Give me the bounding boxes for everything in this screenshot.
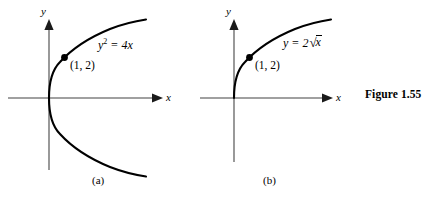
curve-lower-branch xyxy=(49,98,146,177)
x-axis-arrowhead-icon xyxy=(152,93,163,102)
x-axis-arrowhead-icon xyxy=(322,93,333,102)
point-marker-1-2 xyxy=(246,54,253,61)
equation-label-a: y2 = 4x xyxy=(98,39,133,51)
panel-a-sub-caption: (a) xyxy=(92,174,104,186)
figure-container: y x y2 = 4x (1, 2) (a) y x y = 2√x (1, 2… xyxy=(0,0,436,203)
point-label-a: (1, 2) xyxy=(70,60,95,72)
equation-label-b: y = 2√x xyxy=(283,36,322,49)
figure-caption: Figure 1.55 xyxy=(365,88,421,100)
y-axis-arrowhead-icon xyxy=(229,19,238,30)
x-axis-label: x xyxy=(166,92,171,103)
point-marker-1-2 xyxy=(61,54,68,61)
y-axis-label: y xyxy=(41,6,46,17)
figure-panel-a: y x y2 = 4x (1, 2) (a) xyxy=(0,0,200,203)
equation-b-lead: y = 2 xyxy=(283,36,308,50)
x-axis-label: x xyxy=(336,92,341,103)
y-axis-arrowhead-icon xyxy=(44,19,53,30)
panel-b-sub-caption: (b) xyxy=(263,174,276,186)
equation-a-exponent: 2 xyxy=(103,37,107,46)
figure-panel-b: y x y = 2√x (1, 2) (b) xyxy=(200,0,365,203)
equation-a-rest: = 4x xyxy=(110,38,132,52)
radicand: x xyxy=(316,35,322,48)
square-root-icon: √x xyxy=(308,36,321,49)
y-axis-label: y xyxy=(226,6,231,17)
point-label-b: (1, 2) xyxy=(255,60,280,72)
